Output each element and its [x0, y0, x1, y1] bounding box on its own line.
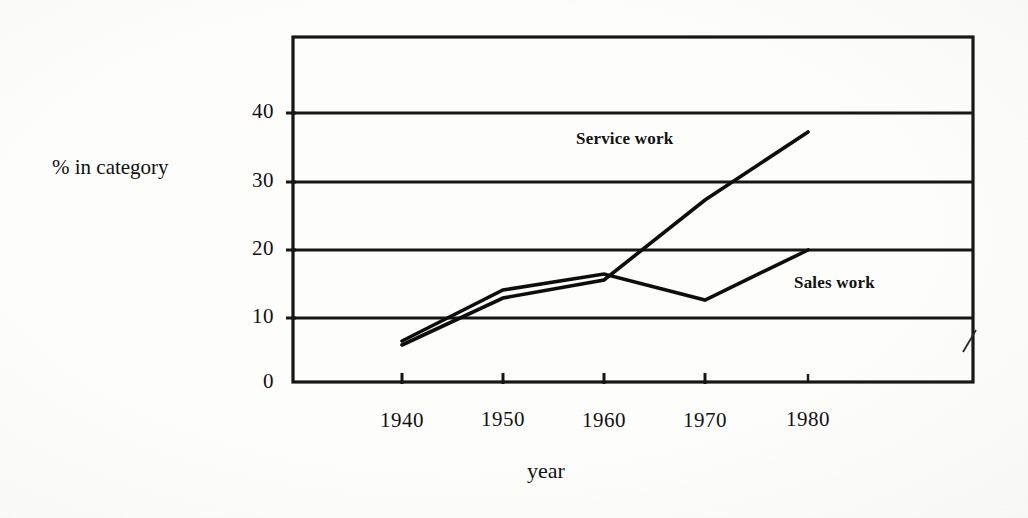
x-tick-label-1960: 1960 — [573, 410, 635, 431]
plot-frame — [293, 37, 973, 382]
line-chart — [0, 0, 1028, 518]
y-tick-label-0: 0 — [214, 371, 274, 392]
x-tick-label-1970: 1970 — [674, 410, 736, 431]
chart-page: % in category 40 30 20 10 0 1940 1950 19… — [0, 0, 1028, 518]
y-tick-label-20: 20 — [214, 238, 274, 259]
x-tick-label-1950: 1950 — [472, 409, 534, 430]
y-axis-title: % in category — [52, 155, 169, 180]
series-label-sales-work: Sales work — [794, 273, 875, 293]
y-tick-label-30: 30 — [214, 170, 274, 191]
series-line-sales-work — [402, 250, 808, 341]
x-tick-label-1940: 1940 — [371, 410, 433, 431]
y-tick-label-40: 40 — [214, 101, 274, 122]
x-axis-title: year — [527, 458, 565, 484]
x-tick-label-1980: 1980 — [777, 409, 839, 430]
series-label-service-work: Service work — [576, 129, 673, 149]
series-line-service-work — [402, 132, 808, 345]
y-tick-label-10: 10 — [214, 306, 274, 327]
